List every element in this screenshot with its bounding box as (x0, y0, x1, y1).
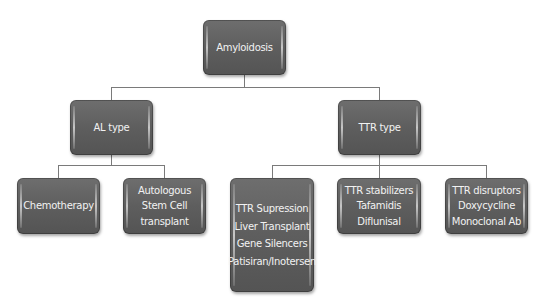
node-line: Autologous (138, 183, 191, 199)
connector-al-children-horizontal (58, 165, 165, 166)
node-line: transplant (140, 214, 188, 230)
connector-ttr-up (379, 87, 380, 100)
node-label: AL type (94, 120, 130, 136)
node-line: Tafamidis (357, 198, 401, 214)
node-line: Gene Silencers (237, 235, 308, 253)
connector-disruptors-up (486, 165, 487, 178)
node-line: TTR Supression (236, 200, 309, 218)
connector-stabilizers-up (379, 165, 380, 178)
connector-suppression-up (272, 165, 273, 178)
node-line: TTR disruptors (452, 183, 520, 199)
node-line: TTR stabilizers (345, 183, 413, 199)
node-label: Chemotherapy (23, 198, 94, 214)
node-al-type: AL type (70, 100, 153, 155)
node-ttr-type: TTR type (338, 100, 421, 155)
node-amyloidosis: Amyloidosis (203, 20, 286, 75)
connector-level1-horizontal (111, 87, 380, 88)
node-ttr-disruptors: TTR disruptors Doxycycline Monoclonal Ab (445, 178, 528, 234)
node-label: TTR type (358, 120, 400, 136)
node-ttr-suppression: TTR Supression Liver Transplant Gene Sil… (230, 178, 314, 292)
connector-al-up (111, 87, 112, 100)
node-line: Diflunisal (357, 214, 400, 230)
node-autologous-stem-cell-transplant: Autologous Stem Cell transplant (123, 178, 206, 234)
node-chemotherapy: Chemotherapy (17, 178, 100, 234)
node-ttr-stabilizers: TTR stabilizers Tafamidis Diflunisal (337, 178, 421, 234)
node-line: Stem Cell (142, 198, 187, 214)
connector-chemo-up (58, 165, 59, 178)
node-line: Monoclonal Ab (452, 214, 521, 230)
connector-autologous-up (164, 165, 165, 178)
node-line: Doxycycline (458, 198, 515, 214)
node-label: Amyloidosis (216, 40, 273, 56)
node-line: Liver Transplant (235, 218, 310, 236)
node-line: Patisiran/Inotersen (228, 253, 316, 271)
